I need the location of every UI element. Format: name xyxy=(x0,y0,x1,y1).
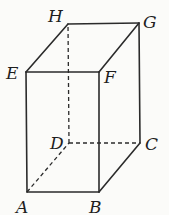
label-H: H xyxy=(47,6,64,26)
label-F: F xyxy=(103,67,117,87)
prism-figure: H G E F D C A B xyxy=(0,0,169,215)
label-G: G xyxy=(143,12,157,32)
edge-GC xyxy=(139,23,140,143)
label-B: B xyxy=(88,197,102,215)
edge-HG xyxy=(68,23,139,24)
edge-GF xyxy=(99,23,139,72)
label-E: E xyxy=(5,63,19,83)
edge-CB xyxy=(99,143,140,192)
label-C: C xyxy=(145,134,158,154)
edge-EH xyxy=(26,24,68,72)
edge-EA xyxy=(26,72,27,192)
prism-diagram: H G E F D C A B xyxy=(0,0,169,215)
label-D: D xyxy=(49,133,64,153)
edge-DH xyxy=(68,24,69,143)
label-A: A xyxy=(14,197,28,215)
